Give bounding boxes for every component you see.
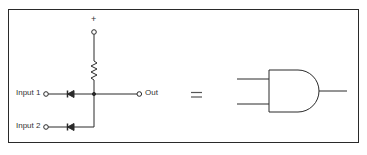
- circuit-drawing: [0, 0, 367, 155]
- equals-icon: [191, 93, 202, 98]
- input1-label: Input 1: [16, 89, 40, 97]
- resistor-icon: [91, 61, 97, 80]
- diode-icon: [68, 91, 75, 98]
- diode-icon: [68, 124, 75, 131]
- supply-label: +: [91, 15, 96, 24]
- input2-label: Input 2: [16, 122, 40, 130]
- output-terminal: [137, 92, 142, 97]
- input1-terminal: [44, 92, 49, 97]
- input2-terminal: [44, 125, 49, 130]
- and-gate-icon: [237, 70, 347, 112]
- output-label: Out: [145, 89, 158, 97]
- supply-terminal: [92, 30, 97, 35]
